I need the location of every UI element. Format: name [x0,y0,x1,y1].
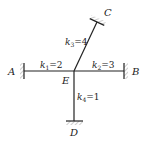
k1-label: k1=2 [40,60,63,71]
k3-label: k3=4 [65,37,88,48]
support-b [124,63,128,79]
spring-system-diagram: A B C D E k1=2 k2=3 k3=4 k4=1 [0,0,151,146]
k4-label: k4=1 [77,92,100,103]
label-c: C [104,7,112,18]
k2-label: k2=3 [92,60,115,71]
label-d: D [69,127,78,138]
support-d [66,121,83,125]
label-a: A [7,66,15,77]
label-b: B [131,66,139,77]
support-a [20,63,24,79]
diagram-canvas: A B C D E k1=2 k2=3 k3=4 k4=1 [0,0,151,146]
label-e: E [61,75,70,86]
